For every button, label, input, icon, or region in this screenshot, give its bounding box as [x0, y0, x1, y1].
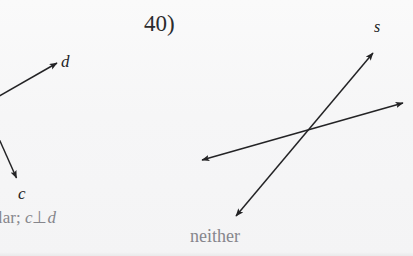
ray-c	[0, 132, 17, 178]
ray-label-c: c	[18, 185, 26, 202]
ray-label-d: d	[61, 53, 70, 70]
diagram-ink-layer	[0, 0, 413, 256]
answer-text-problem-40: neither	[190, 227, 240, 245]
ray-d	[0, 63, 57, 98]
answer-variable-d: d	[47, 208, 56, 227]
line-label-s: s	[374, 19, 380, 35]
perpendicular-symbol: ⊥	[32, 208, 47, 227]
line-transversal	[202, 103, 403, 160]
line-s	[236, 53, 373, 216]
problem-number-40: 40)	[144, 12, 175, 35]
answer-fragment-perpendicular: lar;	[0, 208, 25, 227]
answer-text-left-problem: lar; c⊥d	[0, 209, 56, 226]
worksheet-page: 40) d c s lar; c⊥d neither	[0, 0, 413, 256]
